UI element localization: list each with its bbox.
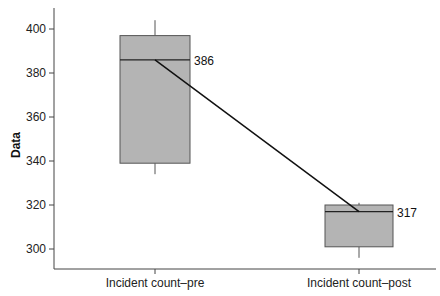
y-tick-label: 320 <box>26 198 46 212</box>
y-tick-label: 300 <box>26 242 46 256</box>
labels: 386317 <box>194 54 417 220</box>
y-tick-label: 400 <box>26 22 46 36</box>
median-value-label: 317 <box>397 206 417 220</box>
y-tick-label: 380 <box>26 66 46 80</box>
x-category-label: Incident count–pre <box>106 276 205 290</box>
y-tick-label: 340 <box>26 154 46 168</box>
boxes <box>120 20 393 258</box>
box-plot-chart: 300320340360380400DataIncident count–pre… <box>0 0 440 296</box>
y-tick-label: 360 <box>26 110 46 124</box>
y-axis-label: Data <box>9 132 23 158</box>
median-value-label: 386 <box>194 54 214 68</box>
box-pre <box>120 20 190 174</box>
x-category-label: Incident count–post <box>307 276 412 290</box>
iqr-box <box>120 36 190 164</box>
axes: 300320340360380400DataIncident count–pre… <box>9 8 436 290</box>
